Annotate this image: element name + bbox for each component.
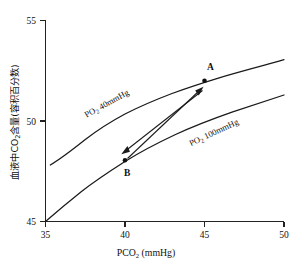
chart-figure: 55 50 45 35 40 45 50 PCO2 (mmHg) 血液中CO2含… xyxy=(0,0,299,264)
x-axis-title-prefix: PCO xyxy=(117,247,136,258)
x-tick-label-45: 45 xyxy=(200,230,210,240)
x-axis-title: PCO2 (mmHg) xyxy=(117,247,176,259)
y-axis-title-part2: 含量(容积百分数) xyxy=(9,64,20,134)
y-tick-label-55: 55 xyxy=(27,16,37,26)
point-a-label: A xyxy=(207,62,214,72)
svg-text:PCO2 (mmHg): PCO2 (mmHg) xyxy=(117,247,176,259)
x-tick-label-50: 50 xyxy=(279,230,289,240)
point-a-marker xyxy=(202,79,207,84)
x-tick-label-40: 40 xyxy=(120,230,130,240)
co2-dissociation-curve-chart: 55 50 45 35 40 45 50 PCO2 (mmHg) 血液中CO2含… xyxy=(0,0,299,264)
x-tick-label-35: 35 xyxy=(41,230,51,240)
y-tick-label-45: 45 xyxy=(27,217,37,227)
y-tick-label-50: 50 xyxy=(27,117,37,127)
y-axis-title-part1: 血液中CO xyxy=(9,139,20,180)
x-axis-title-suffix: (mmHg) xyxy=(139,247,175,259)
point-b-label: B xyxy=(124,168,131,178)
point-b-marker xyxy=(123,158,128,163)
